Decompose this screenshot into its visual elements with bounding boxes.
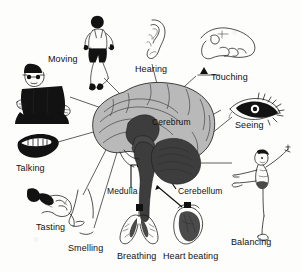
mouth-icon bbox=[18, 134, 59, 158]
label-talking: Talking bbox=[16, 163, 45, 173]
label-heart-beating: Heart beating bbox=[163, 251, 218, 261]
label-hearing: Hearing bbox=[135, 64, 167, 74]
label-thinking: Thinking bbox=[18, 112, 53, 122]
label-medulla: Medulla bbox=[107, 186, 137, 196]
label-tasting: Tasting bbox=[36, 222, 65, 232]
label-cerebrum: Cerebrum bbox=[152, 117, 191, 127]
label-smelling: Smelling bbox=[68, 243, 103, 253]
label-balancing: Balancing bbox=[231, 237, 271, 247]
label-seeing: Seeing bbox=[235, 120, 264, 130]
running-man-icon bbox=[84, 16, 115, 91]
label-moving: Moving bbox=[48, 54, 78, 64]
label-breathing: Breathing bbox=[117, 251, 156, 261]
nose-icon bbox=[66, 189, 94, 234]
lungs-icon bbox=[120, 204, 158, 244]
tongue-tasting-icon bbox=[27, 188, 74, 226]
heart-icon bbox=[174, 202, 203, 244]
label-touching: Touching bbox=[211, 72, 248, 82]
balancing-skater-icon bbox=[232, 145, 290, 240]
brain-functions-figure: Moving Hearing Touching Thinking Seeing … bbox=[0, 0, 301, 272]
hand-touch-icon bbox=[198, 28, 255, 75]
ear-icon bbox=[147, 20, 165, 59]
label-cerebellum: Cerebellum bbox=[178, 186, 222, 196]
